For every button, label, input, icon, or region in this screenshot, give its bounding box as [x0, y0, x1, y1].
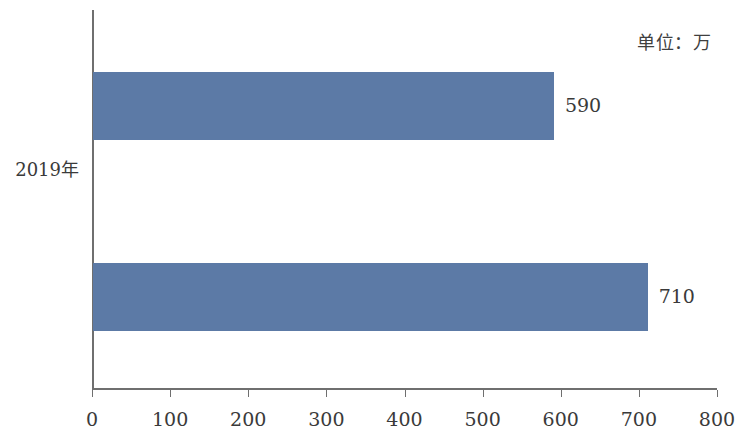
x-axis-tick: [639, 390, 640, 397]
x-axis-tick-label: 500: [464, 408, 500, 428]
bar-chart: 单位：万 0100200300400500600700800 2019年5902…: [0, 0, 735, 428]
x-axis-tick-label: 100: [152, 408, 188, 428]
x-axis-tick-label: 600: [543, 408, 579, 428]
x-axis-tick-label: 200: [230, 408, 266, 428]
category-label: 2019年: [15, 155, 79, 181]
bar[interactable]: 2020年: [93, 263, 648, 331]
x-axis-tick-label: 700: [621, 408, 657, 428]
x-axis-tick: [326, 390, 327, 397]
bar-value-label: 710: [659, 285, 695, 307]
plot-area: 0100200300400500600700800 2019年5902020年7…: [92, 10, 717, 390]
x-axis-tick-label: 800: [699, 408, 735, 428]
y-axis-line: [92, 10, 94, 390]
x-axis-tick: [561, 390, 562, 397]
x-axis-tick-label: 400: [386, 408, 422, 428]
x-axis-tick: [170, 390, 171, 397]
x-axis-tick: [405, 390, 406, 397]
x-axis-tick-label: 300: [308, 408, 344, 428]
x-axis-tick: [717, 390, 718, 397]
bar-value-label: 590: [565, 94, 601, 116]
x-axis-tick: [248, 390, 249, 397]
bar[interactable]: 2019年: [93, 72, 554, 140]
x-axis-tick: [483, 390, 484, 397]
x-axis-tick: [92, 390, 93, 397]
x-axis-tick-label: 0: [86, 408, 98, 428]
